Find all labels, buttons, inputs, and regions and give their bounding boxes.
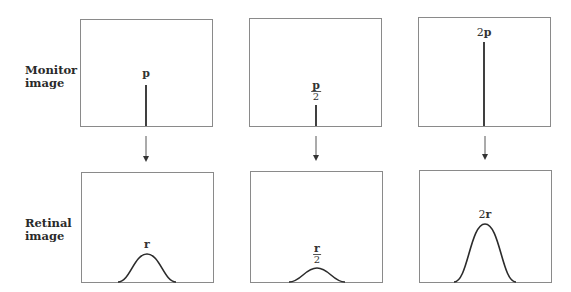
label-p: p xyxy=(142,68,150,79)
label-p-over-2: p 2 xyxy=(311,80,321,102)
bell-curve-r-half xyxy=(289,268,345,282)
arrow-down-icon xyxy=(482,136,488,160)
label-r: r xyxy=(144,239,150,250)
label-2r: 2r xyxy=(479,209,492,220)
bell-curve-2r xyxy=(454,224,516,282)
label-r-over-2: r 2 xyxy=(313,243,321,265)
arrow-down-icon xyxy=(143,136,149,162)
label-2p: 2p xyxy=(477,27,492,38)
arrow-down-icon xyxy=(313,136,319,161)
bell-curve-r xyxy=(118,254,176,282)
diagram-graphics xyxy=(0,0,571,292)
